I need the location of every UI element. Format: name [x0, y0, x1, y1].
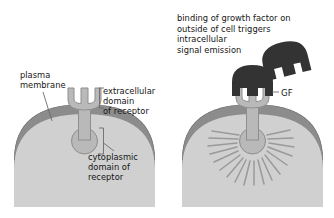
panel-bound-receptor	[182, 37, 323, 207]
label-cytoplasmic-domain: cytoplasmic domain of receptor	[88, 152, 138, 183]
extracellular-domain-left	[68, 88, 101, 110]
signal-transduction-diagram: plasma membrane extracellular domain of …	[0, 0, 334, 218]
transmembrane-stalk-right	[247, 104, 259, 140]
label-growth-factor: GF	[281, 88, 293, 98]
label-extracellular-domain: extracellular domain of receptor	[103, 86, 155, 117]
label-plasma-membrane: plasma membrane	[20, 70, 66, 90]
transmembrane-stalk-left	[79, 108, 91, 140]
label-binding-note: binding of growth factor on outside of c…	[177, 13, 291, 55]
